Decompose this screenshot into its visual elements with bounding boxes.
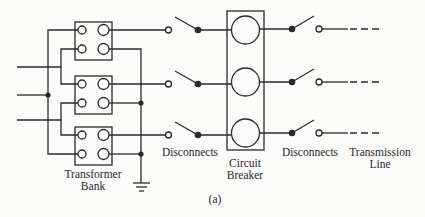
primary-wiring <box>48 30 78 154</box>
disconnects-right-label: Disconnects <box>270 146 350 158</box>
breaker-feed-lines <box>198 30 231 135</box>
disconnects-right-text: Disconnects <box>270 146 350 158</box>
disconnect-right-3 <box>292 120 322 136</box>
circuit-breaker-label-line2: Breaker <box>215 169 275 181</box>
transformer-bank-label: Transformer Bank <box>58 168 128 192</box>
circuit-breaker-label: Circuit Breaker <box>215 157 275 181</box>
circuit-breaker <box>227 11 264 150</box>
disconnect-right-2 <box>292 69 322 85</box>
transformer-bank-label-line1: Transformer <box>58 168 128 180</box>
disconnect-right-1 <box>292 16 322 32</box>
figure-caption: (a) <box>200 193 230 205</box>
figure-caption-text: (a) <box>200 193 230 205</box>
ground-icon <box>133 183 150 191</box>
transformer-1 <box>75 22 112 60</box>
transmission-line-label-line2: Line <box>340 158 420 170</box>
phase-conductors-left <box>109 30 165 135</box>
transmission-line <box>322 29 382 133</box>
disconnect-left-2 <box>166 71 199 87</box>
transformer-3 <box>75 127 112 165</box>
disconnect-left-3 <box>166 122 199 138</box>
neutral-bus <box>109 49 141 183</box>
disconnect-left-1 <box>166 17 199 33</box>
transformer-bank-label-line2: Bank <box>58 180 128 192</box>
circuit-breaker-label-line1: Circuit <box>215 157 275 169</box>
diagram-canvas: Transformer Bank Disconnects Circuit Bre… <box>0 0 425 217</box>
transmission-line-label-line1: Transmission <box>340 146 420 158</box>
input-lines <box>17 67 61 120</box>
transformer-2 <box>75 76 112 114</box>
transmission-line-label: Transmission Line <box>340 146 420 170</box>
